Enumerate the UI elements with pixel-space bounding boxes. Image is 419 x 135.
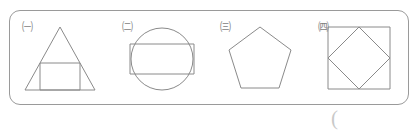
figure-cell-3[interactable]: ㈢ [208,11,308,104]
circle-with-inscribed-rectangle-icon [110,11,210,104]
square-with-inscribed-diamond-icon [306,11,406,104]
figure-cell-4[interactable]: ㈣ [306,11,406,104]
figure-cell-1[interactable]: ㈠ [10,11,110,104]
answer-parenthesis: ( [331,108,338,129]
triangle-with-inscribed-square-icon [10,11,110,104]
figure-box: ㈠ ㈡ ㈢ ㈣ [9,10,409,105]
figure-cell-2[interactable]: ㈡ [110,11,210,104]
pentagon-icon [208,11,308,104]
worksheet-canvas: ㈠ ㈡ ㈢ ㈣ [0,0,419,135]
